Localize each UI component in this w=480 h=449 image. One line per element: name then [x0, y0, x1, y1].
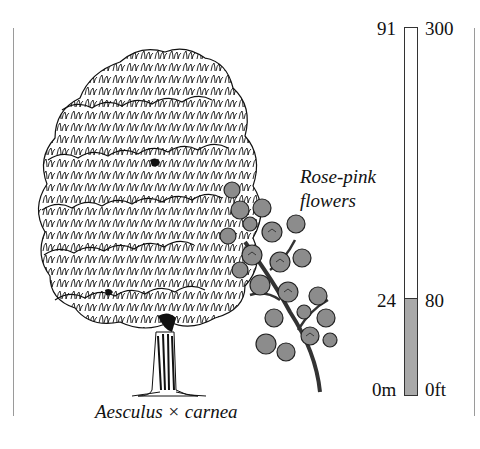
tree-trunk-icon	[132, 332, 206, 396]
scale-imperial-bottom: 0ft	[425, 380, 446, 399]
height-scale-bar	[404, 27, 418, 396]
scale-metric-mark: 24	[377, 291, 396, 310]
flower-annotation: Rose-pink flowers	[300, 165, 376, 213]
scale-metric-bottom: 0m	[372, 380, 396, 399]
flower-annotation-line1: Rose-pink	[300, 165, 376, 189]
species-caption: Aesculus × carnea	[95, 401, 238, 423]
flower-annotation-line2: flowers	[300, 189, 376, 213]
scale-imperial-top: 300	[425, 19, 454, 38]
scale-imperial-mark: 80	[425, 291, 444, 310]
tree-height-fill	[405, 298, 417, 395]
scale-metric-top: 91	[377, 19, 396, 38]
